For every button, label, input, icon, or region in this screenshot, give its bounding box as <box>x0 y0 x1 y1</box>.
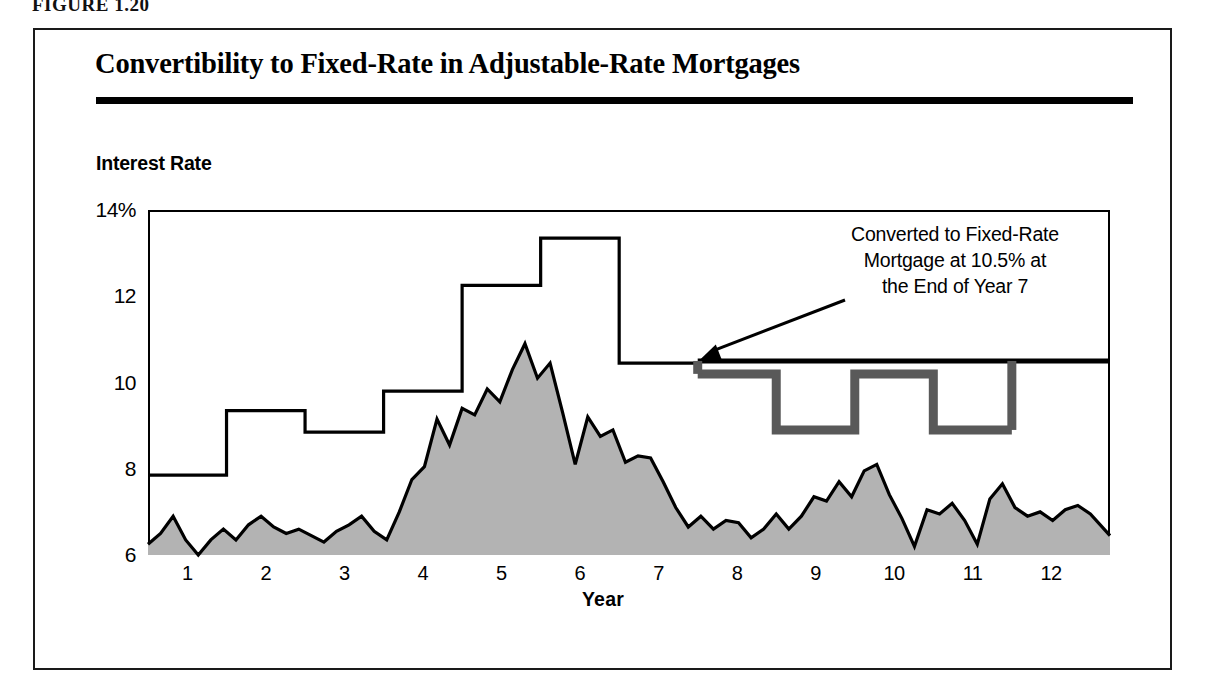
x-axis-tick-10: 10 <box>869 563 919 583</box>
y-axis-tick-10: 10 <box>66 372 136 393</box>
x-axis-tick-8: 8 <box>712 563 762 583</box>
chart-graphics-layer <box>0 0 1206 698</box>
y-axis-tick-12: 12 <box>66 285 136 306</box>
x-axis-tick-12: 12 <box>1026 563 1076 583</box>
y-axis-tick-14: 14% <box>66 199 136 220</box>
x-axis-tick-7: 7 <box>633 563 683 583</box>
hypothetical-arm-step-line <box>698 361 1012 430</box>
x-axis-tick-11: 11 <box>948 563 998 583</box>
y-axis-tick-8: 8 <box>66 458 136 479</box>
x-axis-tick-9: 9 <box>791 563 841 583</box>
annotation-arrow <box>701 300 845 360</box>
x-axis-tick-5: 5 <box>476 563 526 583</box>
x-axis-tick-1: 1 <box>162 563 212 583</box>
x-axis-tick-4: 4 <box>398 563 448 583</box>
x-axis-tick-6: 6 <box>555 563 605 583</box>
x-axis-tick-2: 2 <box>241 563 291 583</box>
x-axis-tick-3: 3 <box>319 563 369 583</box>
y-axis-tick-6: 6 <box>66 544 136 565</box>
index-rate-area <box>148 344 1110 555</box>
